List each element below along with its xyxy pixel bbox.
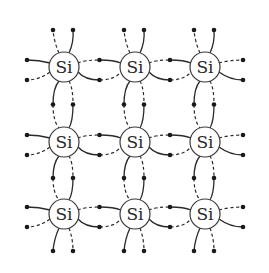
electron-dot bbox=[212, 28, 217, 33]
electron-dot bbox=[97, 153, 102, 158]
electron-dot bbox=[71, 249, 76, 254]
electron-dot bbox=[25, 133, 30, 138]
silicon-atom: Si bbox=[190, 199, 220, 229]
solid-bond-line bbox=[27, 207, 50, 210]
electron-dot bbox=[192, 249, 197, 254]
atom-label: Si bbox=[196, 57, 214, 77]
solid-bond-line bbox=[78, 219, 100, 227]
solid-bond-line bbox=[100, 207, 122, 210]
dashed-bond-line bbox=[194, 105, 200, 129]
solid-bond-line bbox=[219, 219, 243, 227]
dashed-bond-line bbox=[100, 147, 122, 155]
solid-bond-line bbox=[194, 81, 200, 105]
atom-label: Si bbox=[126, 204, 144, 224]
silicon-atom: Si bbox=[120, 127, 150, 157]
solid-bond-line bbox=[100, 135, 122, 138]
solid-bond-line bbox=[78, 147, 100, 155]
solid-bond-line bbox=[124, 81, 130, 105]
silicon-atom: Si bbox=[120, 52, 150, 82]
solid-bond-line bbox=[170, 135, 191, 138]
dashed-bond-line bbox=[210, 228, 214, 251]
dashed-bond-line bbox=[53, 178, 59, 200]
dashed-bond-line bbox=[219, 207, 243, 210]
electron-dot bbox=[71, 176, 76, 181]
electron-dot bbox=[25, 205, 30, 210]
dashed-bond-line bbox=[170, 219, 191, 227]
electron-dot bbox=[122, 28, 127, 33]
silicon-atom: Si bbox=[190, 127, 220, 157]
electron-dot bbox=[192, 176, 197, 181]
solid-bond-line bbox=[170, 207, 191, 210]
dashed-bond-line bbox=[78, 135, 100, 138]
solid-bond-line bbox=[149, 219, 170, 227]
electron-dot bbox=[241, 153, 246, 158]
electron-dot bbox=[97, 58, 102, 63]
electron-dot bbox=[241, 78, 246, 83]
solid-bond-line bbox=[140, 30, 144, 53]
electron-dot bbox=[142, 102, 147, 107]
electron-dot bbox=[97, 78, 102, 83]
solid-bond-line bbox=[100, 60, 122, 63]
atom-label: Si bbox=[126, 132, 144, 152]
atom-layer: SiSiSiSiSiSiSiSiSi bbox=[49, 52, 220, 229]
electron-dot bbox=[212, 176, 217, 181]
electron-dot bbox=[192, 28, 197, 33]
solid-bond-line bbox=[194, 156, 200, 178]
solid-bond-line bbox=[194, 228, 200, 251]
silicon-atom: Si bbox=[190, 52, 220, 82]
dashed-bond-line bbox=[53, 30, 59, 53]
dashed-bond-line bbox=[140, 81, 144, 105]
electron-dot bbox=[71, 102, 76, 107]
dashed-bond-line bbox=[78, 60, 100, 63]
dashed-bond-line bbox=[219, 135, 243, 138]
electron-dot bbox=[192, 102, 197, 107]
electron-dot bbox=[212, 249, 217, 254]
solid-bond-line bbox=[140, 105, 144, 129]
electron-dot bbox=[142, 249, 147, 254]
electron-dot bbox=[168, 133, 173, 138]
solid-bond-line bbox=[53, 228, 59, 251]
solid-bond-line bbox=[69, 30, 73, 53]
solid-bond-line bbox=[69, 178, 73, 200]
electron-dot bbox=[51, 28, 56, 33]
dashed-bond-line bbox=[100, 72, 122, 80]
dashed-bond-line bbox=[170, 72, 191, 80]
electron-dot bbox=[142, 28, 147, 33]
solid-bond-line bbox=[53, 81, 59, 105]
electron-dot bbox=[168, 225, 173, 230]
electron-dot bbox=[25, 153, 30, 158]
electron-dot bbox=[97, 205, 102, 210]
dashed-bond-line bbox=[170, 147, 191, 155]
dashed-bond-line bbox=[124, 30, 130, 53]
dashed-bond-line bbox=[149, 60, 170, 63]
dashed-bond-line bbox=[124, 178, 130, 200]
atom-label: Si bbox=[55, 132, 73, 152]
dashed-bond-line bbox=[27, 219, 50, 227]
dashed-bond-line bbox=[140, 156, 144, 178]
electron-dot bbox=[241, 58, 246, 63]
electron-dot bbox=[168, 153, 173, 158]
dashed-bond-line bbox=[27, 147, 50, 155]
electron-dot bbox=[97, 225, 102, 230]
electron-dot bbox=[51, 102, 56, 107]
dashed-bond-line bbox=[140, 228, 144, 251]
electron-dot bbox=[212, 102, 217, 107]
solid-bond-line bbox=[210, 105, 214, 129]
electron-dot bbox=[122, 176, 127, 181]
dashed-bond-line bbox=[149, 135, 170, 138]
dashed-bond-line bbox=[27, 72, 50, 80]
electron-dot bbox=[25, 78, 30, 83]
dashed-bond-line bbox=[149, 207, 170, 210]
solid-bond-line bbox=[149, 147, 170, 155]
electron-dot bbox=[168, 78, 173, 83]
atom-label: Si bbox=[196, 132, 214, 152]
solid-bond-line bbox=[124, 156, 130, 178]
electron-dot bbox=[122, 102, 127, 107]
electron-dot bbox=[97, 133, 102, 138]
electron-dot bbox=[25, 225, 30, 230]
silicon-atom: Si bbox=[49, 127, 79, 157]
electron-dot bbox=[168, 58, 173, 63]
electron-dot bbox=[25, 58, 30, 63]
silicon-atom: Si bbox=[120, 199, 150, 229]
solid-bond-line bbox=[69, 105, 73, 129]
